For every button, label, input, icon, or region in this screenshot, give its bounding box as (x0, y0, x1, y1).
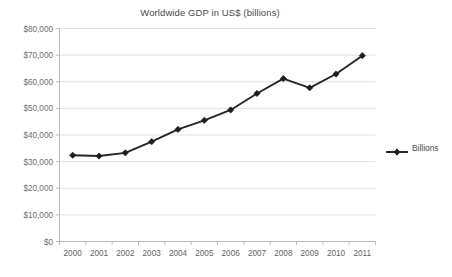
y-axis-tick-label: $30,000 (23, 158, 53, 167)
data-point-marker (70, 152, 76, 158)
x-axis-tick-label: 2006 (222, 249, 241, 258)
x-axis-tick-label: 2005 (195, 249, 214, 258)
y-axis-tick-label: $60,000 (23, 78, 53, 87)
x-axis-tick-label: 2008 (274, 249, 293, 258)
x-axis-tick-label: 2001 (90, 249, 109, 258)
y-axis-tick-label: $0 (44, 238, 54, 247)
x-axis-tick-label: 2003 (143, 249, 162, 258)
y-axis-tick-label: $20,000 (23, 184, 53, 193)
series-line-billions (73, 56, 363, 156)
x-axis-tick-label: 2009 (301, 249, 320, 258)
x-axis-tick-labels: 2000200120022003200420052006200720082009… (64, 249, 372, 258)
y-axis-tick-label: $40,000 (23, 131, 53, 140)
chart-legend: Billions (386, 143, 439, 153)
x-axis-tick-label: 2011 (354, 249, 372, 258)
gridlines-group (60, 29, 376, 242)
x-axis-tick-label: 2002 (116, 249, 135, 258)
y-axis-tick-labels: $0$10,000$20,000$30,000$40,000$50,000$60… (23, 25, 53, 247)
x-axis-tick-label: 2000 (64, 249, 83, 258)
data-point-marker (149, 139, 155, 145)
y-axis-tick-label: $70,000 (23, 51, 53, 60)
axes-group (56, 29, 376, 246)
x-axis-tick-label: 2004 (169, 249, 188, 258)
legend-label-billions: Billions (412, 143, 439, 153)
x-axis-tick-label: 2007 (248, 249, 267, 258)
y-axis-tick-label: $50,000 (23, 104, 53, 113)
legend-diamond-marker-icon (386, 143, 408, 153)
y-axis-tick-label: $80,000 (23, 25, 53, 34)
x-axis-tick-label: 2010 (327, 249, 346, 258)
chart-plot-area: $0$10,000$20,000$30,000$40,000$50,000$60… (0, 0, 452, 277)
y-axis-tick-label: $10,000 (23, 211, 53, 220)
data-point-marker (175, 126, 181, 132)
data-point-marker (96, 153, 102, 159)
data-point-marker (122, 150, 128, 156)
data-point-marker (201, 117, 207, 123)
gdp-line-chart-figure: Worldwide GDP in US$ (billions) $0$10,00… (0, 0, 452, 277)
data-series-billions (70, 53, 366, 160)
